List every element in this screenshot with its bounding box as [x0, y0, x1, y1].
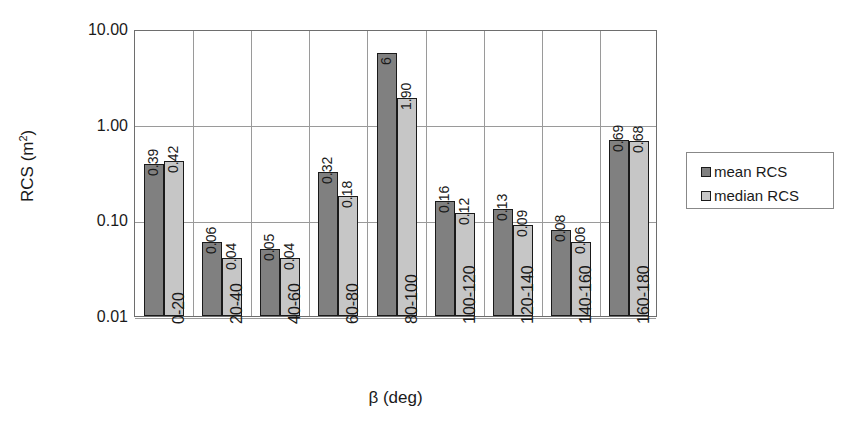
- y-axis-tick-label: 0.01: [56, 309, 128, 325]
- x-axis-tick-label: 60-80: [345, 283, 361, 324]
- gridline-vertical: [309, 31, 310, 316]
- bar-value-label: 0.13: [495, 194, 509, 221]
- x-axis-tick-label: 140-160: [578, 265, 594, 324]
- x-axis-tick-label: 40-60: [287, 283, 303, 324]
- gridline-vertical: [251, 31, 252, 316]
- bar-mean: [551, 230, 571, 316]
- bar-value-label: 0.09: [515, 209, 529, 236]
- y-axis-tick-labels: 10.001.000.100.01: [56, 0, 128, 434]
- bar-value-label: 0.42: [166, 145, 180, 172]
- bar-value-label: 0.04: [282, 243, 296, 270]
- bar-value-label: 0.69: [611, 125, 625, 152]
- bar-mean: [493, 209, 513, 316]
- legend-item-label: mean RCS: [714, 164, 787, 179]
- gridline-vertical: [193, 31, 194, 316]
- bar-chart: RCS (m2) 10.001.000.100.01 0.390.420.060…: [0, 0, 864, 434]
- bar-value-label: 0.05: [262, 234, 276, 261]
- bar-value-label: 1.90: [399, 83, 413, 110]
- bar-value-label: 0.68: [631, 125, 645, 152]
- x-axis-tick-label: 160-180: [636, 265, 652, 324]
- gridline-vertical: [426, 31, 427, 316]
- bar-value-label: 0.32: [320, 157, 334, 184]
- gridline-vertical: [600, 31, 601, 316]
- y-axis-tick-label: 1.00: [56, 118, 128, 134]
- bar-mean: [609, 140, 629, 316]
- x-axis-tick-label: 80-100: [404, 274, 420, 324]
- legend-item: median RCS: [701, 188, 799, 203]
- bar-mean: [144, 164, 164, 316]
- bar-value-label: 0.08: [553, 214, 567, 241]
- gridline-vertical: [367, 31, 368, 316]
- legend-item-label: median RCS: [714, 188, 799, 203]
- bar-mean: [377, 53, 397, 316]
- bar-value-label: 0.16: [437, 186, 451, 213]
- legend-swatch-icon: [701, 191, 711, 201]
- x-axis-tick-label: 20-40: [229, 283, 245, 324]
- y-axis-tick-label: 10.00: [56, 22, 128, 38]
- y-axis-tick-label: 0.10: [56, 213, 128, 229]
- x-axis-tick-label: 0-20: [171, 292, 187, 324]
- bar-value-label: 0.39: [146, 149, 160, 176]
- x-axis-title: β (deg): [134, 388, 657, 408]
- bar-value-label: 0.06: [573, 226, 587, 253]
- bar-value-label: 6: [379, 57, 393, 65]
- bar-value-label: 0.12: [457, 198, 471, 225]
- gridline-vertical: [542, 31, 543, 316]
- legend-item: mean RCS: [701, 164, 787, 179]
- x-axis-tick-label: 100-120: [462, 265, 478, 324]
- bar-mean: [435, 201, 455, 316]
- bar-mean: [318, 172, 338, 316]
- chart-legend: mean RCSmedian RCS: [686, 152, 834, 209]
- x-axis-tick-label: 120-140: [520, 265, 536, 324]
- y-axis-title-text: RCS (m2): [18, 130, 37, 202]
- legend-swatch-icon: [701, 167, 711, 177]
- y-axis-title: RCS (m2): [16, 106, 38, 226]
- bar-value-label: 0.04: [224, 243, 238, 270]
- bar-value-label: 0.06: [204, 226, 218, 253]
- gridline-vertical: [484, 31, 485, 316]
- bar-value-label: 0.18: [340, 181, 354, 208]
